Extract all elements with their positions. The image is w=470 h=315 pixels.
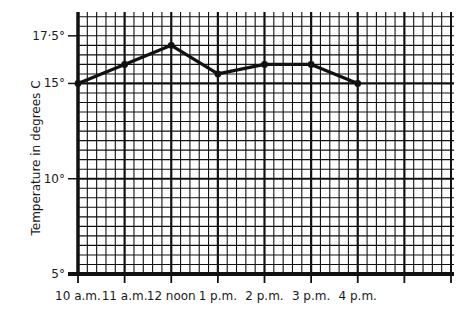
y-tick-label: 17·5°: [32, 29, 65, 43]
x-tick-label: 3 p.m.: [292, 289, 330, 303]
data-point: [308, 61, 315, 68]
data-point: [168, 42, 175, 49]
y-tick-label: 5°: [51, 267, 65, 281]
data-point: [261, 61, 268, 68]
x-tick-label: 4 p.m.: [339, 289, 377, 303]
data-point: [121, 61, 128, 68]
minor-grid: [78, 12, 454, 274]
x-tick-label: 12 noon: [147, 289, 196, 303]
y-axis-title: Temperature in degrees C: [29, 80, 43, 236]
x-axis-ticks: 10 a.m.11 a.m.12 noon1 p.m.2 p.m.3 p.m.4…: [55, 274, 451, 303]
x-tick-label: 2 p.m.: [245, 289, 283, 303]
x-tick-label: 1 p.m.: [199, 289, 237, 303]
data-point: [354, 80, 361, 87]
temperature-chart: 5°10°15°17·5° 10 a.m.11 a.m.12 noon1 p.m…: [0, 0, 470, 315]
x-tick-label: 10 a.m.: [55, 289, 101, 303]
data-point: [75, 80, 82, 87]
y-tick-label: 10°: [44, 172, 65, 186]
y-tick-label: 15°: [44, 76, 65, 90]
x-tick-label: 11 a.m.: [102, 289, 148, 303]
data-point: [214, 71, 221, 78]
